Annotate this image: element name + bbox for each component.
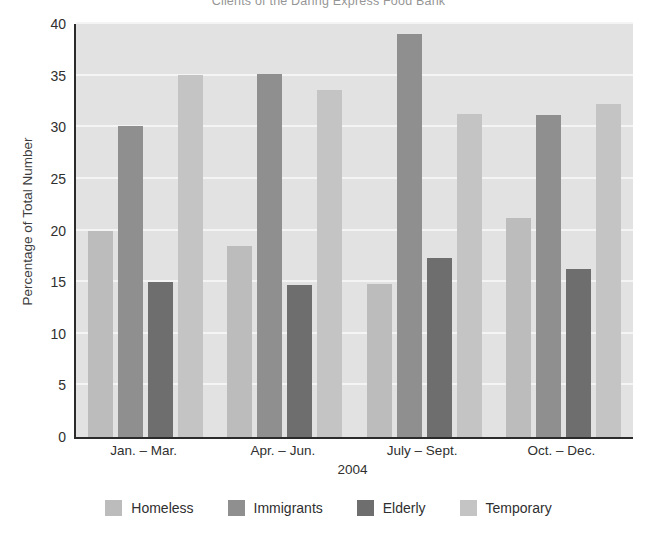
legend-item-temporary: Temporary bbox=[460, 500, 552, 516]
bar-group bbox=[76, 24, 215, 437]
bar-elderly bbox=[148, 282, 173, 437]
legend-item-immigrants: Immigrants bbox=[228, 500, 323, 516]
legend-item-homeless: Homeless bbox=[105, 500, 193, 516]
legend-label: Temporary bbox=[486, 500, 552, 516]
plot-area bbox=[74, 24, 633, 439]
bar-homeless bbox=[367, 284, 392, 437]
y-tick-label: 0 bbox=[26, 429, 66, 445]
bar-homeless bbox=[88, 231, 113, 438]
x-tick-label: Oct. – Dec. bbox=[528, 443, 596, 458]
legend-label: Immigrants bbox=[254, 500, 323, 516]
bar-immigrants bbox=[397, 34, 422, 437]
bar-chart-figure: Clients of the Daring Express Food Bank … bbox=[0, 0, 657, 537]
bar-immigrants bbox=[536, 115, 561, 437]
legend-label: Elderly bbox=[383, 500, 426, 516]
x-axis-title: 2004 bbox=[74, 462, 631, 477]
bars-layer bbox=[76, 24, 633, 437]
bar-temporary bbox=[457, 114, 482, 437]
legend-item-elderly: Elderly bbox=[357, 500, 426, 516]
bar-elderly bbox=[287, 285, 312, 437]
chart-legend: HomelessImmigrantsElderlyTemporary bbox=[0, 500, 657, 516]
y-axis-title: Percentage of Total Number bbox=[20, 62, 35, 382]
legend-swatch-icon bbox=[228, 500, 245, 516]
bar-temporary bbox=[596, 104, 621, 437]
bar-group bbox=[494, 24, 633, 437]
legend-label: Homeless bbox=[131, 500, 193, 516]
chart-title: Clients of the Daring Express Food Bank bbox=[0, 0, 657, 8]
bar-homeless bbox=[506, 218, 531, 437]
legend-swatch-icon bbox=[357, 500, 374, 516]
y-tick-label: 40 bbox=[26, 16, 66, 32]
bar-homeless bbox=[227, 246, 252, 437]
bar-group bbox=[355, 24, 494, 437]
bar-group bbox=[215, 24, 354, 437]
bar-immigrants bbox=[257, 74, 282, 437]
bar-elderly bbox=[427, 258, 452, 437]
legend-swatch-icon bbox=[460, 500, 477, 516]
bar-elderly bbox=[566, 269, 591, 437]
x-tick-label: Jan. – Mar. bbox=[110, 443, 177, 458]
legend-swatch-icon bbox=[105, 500, 122, 516]
bar-temporary bbox=[317, 90, 342, 437]
bar-temporary bbox=[178, 75, 203, 437]
bar-immigrants bbox=[118, 126, 143, 437]
x-tick-label: Apr. – Jun. bbox=[251, 443, 316, 458]
x-tick-label: July – Sept. bbox=[387, 443, 458, 458]
